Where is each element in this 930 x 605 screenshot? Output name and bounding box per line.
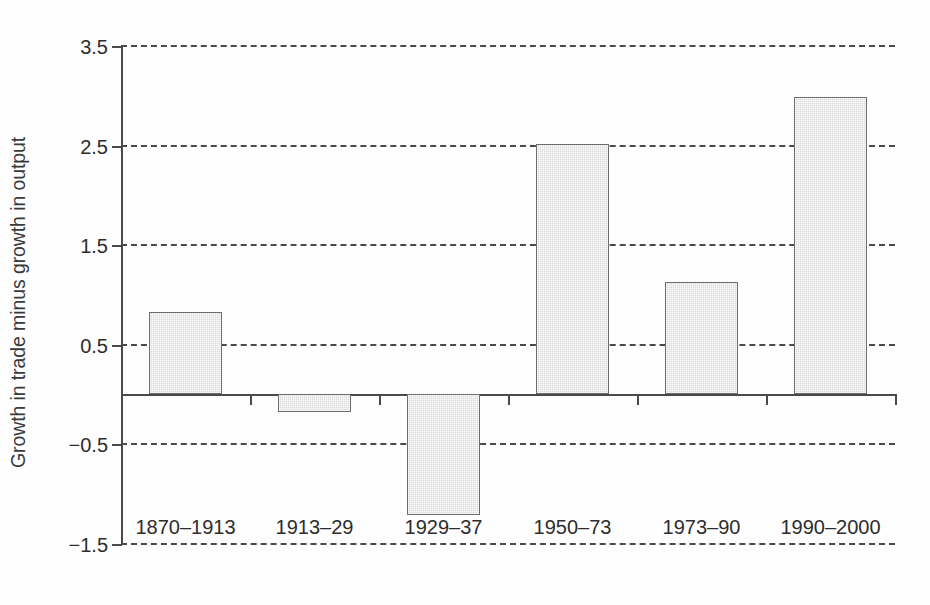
y-tick-mark xyxy=(112,46,122,48)
bar xyxy=(794,97,867,394)
x-category-label: 1913–29 xyxy=(276,516,354,539)
y-tick-label: 0.5 xyxy=(80,334,108,357)
gridline-3neg5: 3.5 xyxy=(121,45,895,47)
bar xyxy=(536,144,609,394)
x-category-label: 1973–90 xyxy=(663,516,741,539)
gridline-neg1-5: −1.5 xyxy=(121,543,895,545)
x-category-label: 1870–1913 xyxy=(135,516,235,539)
gridline-0neg5: 0.5 xyxy=(121,344,895,346)
bar xyxy=(665,282,738,394)
x-tick-mark xyxy=(637,394,639,405)
gridline-2neg5: 2.5 xyxy=(121,145,895,147)
y-axis-spine xyxy=(121,45,123,543)
x-category-label: 1950–73 xyxy=(534,516,612,539)
y-tick-label: 1.5 xyxy=(80,235,108,258)
x-category-label: 1990–2000 xyxy=(780,516,880,539)
y-tick-mark xyxy=(112,544,122,546)
x-tick-mark xyxy=(379,394,381,405)
y-tick-mark xyxy=(112,245,122,247)
y-tick-mark xyxy=(112,345,122,347)
x-tick-mark xyxy=(250,394,252,405)
y-tick-label: 2.5 xyxy=(80,135,108,158)
x-tick-mark xyxy=(508,394,510,405)
y-tick-mark xyxy=(112,146,122,148)
y-tick-label: −1.5 xyxy=(69,534,108,557)
y-axis-title: Growth in trade minus growth in output xyxy=(0,0,36,605)
x-tick-mark xyxy=(766,394,768,405)
y-tick-label: 3.5 xyxy=(80,36,108,59)
chart-figure: Growth in trade minus growth in output 3… xyxy=(0,0,930,605)
gridline-1neg5: 1.5 xyxy=(121,244,895,246)
y-tick-mark xyxy=(112,444,122,446)
gridline-neg0-5: −0.5 xyxy=(121,443,895,445)
plot-area: 3.52.51.50.5−0.5−1.5 xyxy=(121,45,895,543)
y-tick-label: −0.5 xyxy=(69,434,108,457)
bar xyxy=(407,394,480,516)
bar xyxy=(149,312,222,394)
x-tick-mark xyxy=(895,394,897,405)
bar xyxy=(278,394,351,412)
x-category-label: 1929–37 xyxy=(405,516,483,539)
